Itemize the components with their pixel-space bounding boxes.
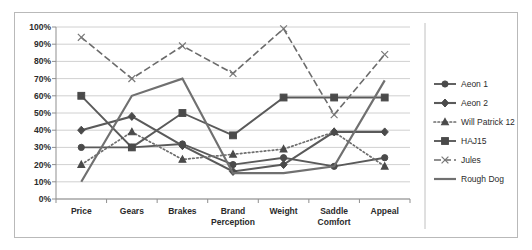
x-axis-tick-label: Price: [71, 206, 92, 216]
data-point-aeon-1: [78, 144, 84, 150]
legend-item-aeon-2[interactable]: Aeon 2: [434, 98, 488, 108]
data-point-jules: [331, 111, 338, 118]
line-chart: 100%90%80%70%60%50%40%30%20%10%0% PriceG…: [15, 13, 519, 239]
data-point-aeon-2: [128, 112, 135, 120]
data-point-will-patrick-12: [230, 151, 237, 157]
data-point-haj15: [280, 94, 287, 101]
legend-label-aeon-2: Aeon 2: [461, 98, 488, 108]
legend-item-will-patrick-12[interactable]: Will Patrick 12: [434, 117, 515, 127]
y-axis-tick-label: 20%: [34, 160, 51, 170]
x-axis-tick-label: Appeal: [371, 206, 399, 216]
x-axis-tick-labels: PriceGearsBrakesBrandPerceptionWeightSad…: [71, 206, 399, 227]
legend-item-haj15[interactable]: HAJ15: [434, 136, 487, 146]
y-axis-tick-label: 30%: [34, 142, 51, 152]
data-point-haj15: [128, 144, 135, 151]
y-axis-tick-label: 0%: [39, 194, 52, 204]
legend-marker-haj15: [442, 138, 449, 145]
x-axis-tick-label: Weight: [269, 206, 297, 216]
data-point-aeon-1: [382, 155, 388, 161]
chart-legend: Aeon 1Aeon 2Will Patrick 12HAJ15JulesRou…: [425, 23, 515, 229]
y-axis-tick-label: 40%: [34, 125, 51, 135]
data-point-jules: [179, 43, 186, 50]
y-axis-tick-label: 90%: [34, 39, 51, 49]
legend-marker-aeon-1: [442, 81, 448, 87]
x-axis-tick-label: Brakes: [168, 206, 197, 216]
y-axis-tick-label: 10%: [34, 177, 51, 187]
legend-item-aeon-1[interactable]: Aeon 1: [434, 79, 488, 89]
series-line-jules: [81, 29, 384, 115]
chart-container: 100%90%80%70%60%50%40%30%20%10%0% PriceG…: [14, 12, 518, 238]
data-point-haj15: [331, 94, 338, 101]
legend-label-haj15: HAJ15: [461, 136, 487, 146]
y-axis-tick-label: 100%: [29, 22, 51, 32]
data-point-jules: [280, 25, 287, 32]
data-point-aeon-2: [78, 126, 85, 134]
legend-label-rough-dog: Rough Dog: [461, 174, 504, 184]
data-point-will-patrick-12: [128, 128, 135, 134]
x-axis-tick-label: BrandPerception: [211, 206, 255, 227]
legend-marker-aeon-2: [441, 99, 448, 107]
data-point-jules: [230, 70, 237, 77]
y-axis-tick-label: 70%: [34, 74, 51, 84]
legend-label-aeon-1: Aeon 1: [461, 79, 488, 89]
data-point-will-patrick-12: [381, 163, 388, 169]
y-axis-tick-labels: 100%90%80%70%60%50%40%30%20%10%0%: [29, 22, 51, 204]
data-point-haj15: [230, 132, 237, 139]
legend-label-will-patrick-12: Will Patrick 12: [461, 117, 515, 127]
data-point-haj15: [179, 110, 186, 117]
data-point-jules: [78, 34, 85, 41]
data-point-aeon-2: [381, 128, 388, 136]
legend-item-jules[interactable]: Jules: [434, 155, 481, 165]
y-axis-tick-label: 50%: [34, 108, 51, 118]
data-point-haj15: [78, 92, 85, 99]
series-jules: [78, 25, 388, 118]
y-axis-tick-label: 80%: [34, 56, 51, 66]
plot-area-wrapper: 100%90%80%70%60%50%40%30%20%10%0% PriceG…: [15, 13, 519, 239]
data-point-jules: [381, 51, 388, 58]
series-layer: [78, 25, 389, 181]
series-haj15: [78, 92, 388, 150]
axis-lines: [52, 27, 410, 203]
x-axis-tick-label: SaddleComfort: [318, 206, 351, 227]
data-point-will-patrick-12: [78, 161, 85, 167]
data-point-haj15: [381, 94, 388, 101]
legend-item-rough-dog[interactable]: Rough Dog: [434, 174, 504, 184]
x-axis-tick-label: Gears: [120, 206, 144, 216]
legend-label-jules: Jules: [461, 155, 481, 165]
y-axis-tick-label: 60%: [34, 91, 51, 101]
